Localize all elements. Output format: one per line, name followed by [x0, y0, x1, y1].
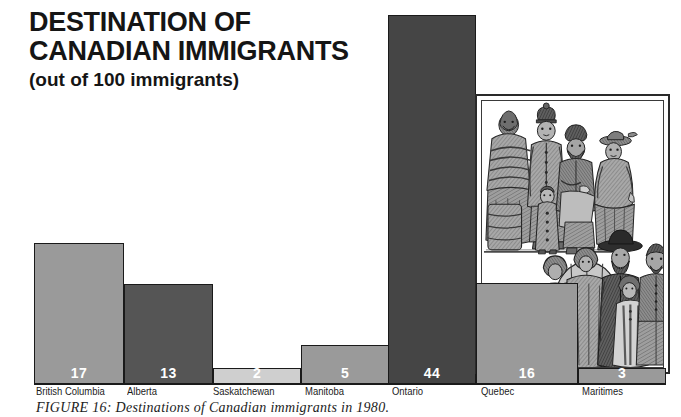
- luggage-barrel: [488, 204, 522, 250]
- bar-value-saskatchewan: 2: [214, 365, 300, 381]
- category-label-british-columbia: British Columbia: [36, 385, 105, 398]
- chart-title-line-1: DESTINATION OF: [29, 8, 429, 37]
- chart-title-line-2: CANADIAN IMMIGRANTS: [29, 37, 429, 66]
- bar-value-ontario: 44: [389, 365, 475, 381]
- bar-maritimes: 3: [578, 368, 666, 384]
- bar-saskatchewan: 2: [213, 368, 301, 384]
- category-label-row: British ColumbiaAlbertaSaskatchewanManit…: [0, 385, 681, 399]
- category-label-saskatchewan: Saskatchewan: [213, 385, 275, 398]
- bar-quebec: 16: [476, 283, 578, 384]
- category-label-ontario: Ontario: [392, 385, 423, 398]
- figure-caption: FIGURE 16: Destinations of Canadian immi…: [36, 399, 389, 416]
- bar-value-maritimes: 3: [579, 365, 665, 381]
- bar-value-alberta: 13: [125, 365, 212, 381]
- category-label-quebec: Quebec: [481, 385, 514, 398]
- bar-manitoba: 5: [301, 345, 389, 384]
- category-label-maritimes: Maritimes: [582, 385, 623, 398]
- title-block: DESTINATION OF CANADIAN IMMIGRANTS (out …: [29, 8, 429, 92]
- bar-value-manitoba: 5: [302, 365, 388, 381]
- chart-subtitle: (out of 100 immigrants): [29, 68, 429, 92]
- category-label-manitoba: Manitoba: [305, 385, 344, 398]
- bar-british-columbia: 17: [34, 243, 124, 384]
- bar-value-quebec: 16: [477, 365, 577, 381]
- category-label-alberta: Alberta: [127, 385, 157, 398]
- bar-alberta: 13: [124, 284, 213, 384]
- bar-value-british-columbia: 17: [35, 365, 123, 381]
- figure-container: 17132544163: [0, 0, 681, 417]
